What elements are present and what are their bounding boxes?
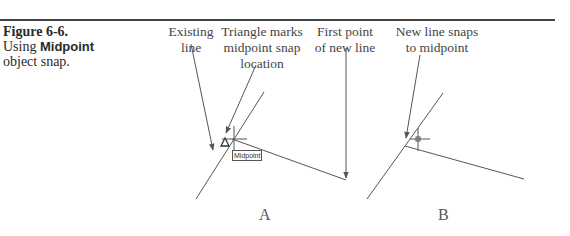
panel-label-a: A	[259, 206, 271, 224]
diagram-canvas	[0, 0, 570, 236]
leader-triangle-a	[226, 65, 256, 133]
leader-existing-line-a	[191, 44, 213, 150]
drawing-a	[191, 44, 346, 199]
drawing-b	[367, 55, 524, 199]
existing-line-a	[196, 92, 264, 199]
leader-new-line-snaps-b	[406, 55, 420, 138]
new-line-b	[405, 146, 524, 179]
panel-label-b: B	[438, 206, 449, 224]
midpoint-tooltip: Midpoint	[232, 150, 262, 161]
